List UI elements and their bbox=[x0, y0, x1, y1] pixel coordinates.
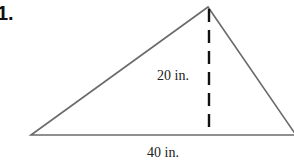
height-label: 20 in. bbox=[157, 68, 189, 84]
triangle-figure bbox=[0, 0, 294, 165]
base-label: 40 in. bbox=[147, 145, 179, 161]
